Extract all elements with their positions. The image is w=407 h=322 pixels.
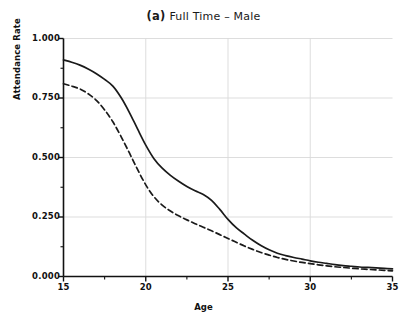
chart-title-text: Full Time – Male	[169, 10, 260, 23]
gridlines	[64, 39, 393, 277]
chart-title: (a)Full Time – Male	[0, 9, 407, 23]
x-axis-tick-labels: 1520253035	[0, 282, 407, 298]
x-tick-label: 35	[378, 282, 407, 292]
chart-figure: (a)Full Time – Male Attendance Rate Age …	[0, 0, 407, 322]
y-tick-label: 1.000	[18, 33, 60, 43]
y-tick-label: 0.750	[18, 92, 60, 102]
x-tick-label: 25	[213, 282, 243, 292]
x-tick-label: 20	[131, 282, 161, 292]
y-tick-label: 0.000	[18, 271, 60, 281]
y-tick-label: 0.500	[18, 152, 60, 162]
panel-tag-label: (a)	[147, 9, 166, 23]
plot-area	[0, 0, 407, 322]
y-tick-label: 0.250	[18, 211, 60, 221]
x-axis-label: Age	[0, 302, 407, 312]
x-tick-label: 30	[295, 282, 325, 292]
x-tick-label: 15	[49, 282, 79, 292]
y-axis-tick-labels: 0.0000.2500.5000.7501.000	[14, 0, 60, 322]
axis-ticks	[59, 39, 393, 282]
